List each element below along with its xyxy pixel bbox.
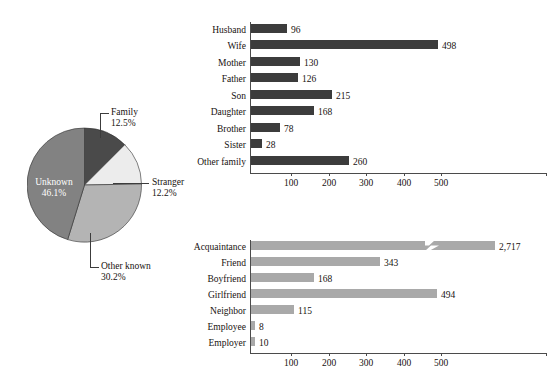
known-chart-bar-friend bbox=[251, 257, 380, 266]
known-chart-tick-label-100: 100 bbox=[276, 358, 306, 368]
known-chart-value-girlfriend: 494 bbox=[441, 290, 455, 300]
known-chart-value-boyfriend: 168 bbox=[318, 274, 332, 284]
known-nonfamily-bar-chart: 100 200 300 400 500 Acquaintance 2,717 F… bbox=[0, 0, 549, 391]
known-chart-cat-neighbor: Neighbor bbox=[176, 306, 246, 316]
known-chart-tick-label-400: 400 bbox=[389, 358, 419, 368]
known-chart-tick-100 bbox=[291, 353, 292, 356]
known-chart-cat-boyfriend: Boyfriend bbox=[176, 274, 246, 284]
known-chart-tick-300 bbox=[366, 353, 367, 356]
known-chart-value-friend: 343 bbox=[384, 258, 398, 268]
known-chart-bar-acquaintance bbox=[251, 241, 495, 250]
known-chart-axis-break-icon bbox=[424, 240, 440, 251]
known-chart-tick-500 bbox=[441, 353, 442, 356]
figure-canvas: Unknown 46.1% Family 12.5% Stranger 12.2… bbox=[0, 0, 549, 391]
known-chart-tick-200 bbox=[329, 353, 330, 356]
known-chart-cat-employee: Employee bbox=[176, 322, 246, 332]
known-chart-tick-label-300: 300 bbox=[351, 358, 381, 368]
known-chart-value-neighbor: 115 bbox=[298, 306, 312, 316]
known-chart-bar-girlfriend bbox=[251, 289, 437, 298]
known-chart-bar-employer bbox=[251, 337, 255, 346]
known-chart-value-employee: 8 bbox=[259, 322, 264, 332]
known-chart-tick-label-500: 500 bbox=[426, 358, 456, 368]
known-chart-value-acquaintance: 2,717 bbox=[499, 242, 520, 252]
known-chart-bar-employee bbox=[251, 321, 255, 330]
known-chart-cat-employer: Employer bbox=[176, 338, 246, 348]
known-chart-tick-label-200: 200 bbox=[314, 358, 344, 368]
known-chart-value-employer: 10 bbox=[259, 338, 269, 348]
known-chart-cat-girlfriend: Girlfriend bbox=[176, 290, 246, 300]
known-chart-tick-400 bbox=[404, 353, 405, 356]
known-chart-bar-boyfriend bbox=[251, 273, 314, 282]
known-chart-bar-neighbor bbox=[251, 305, 294, 314]
known-chart-tick-end bbox=[546, 353, 547, 356]
known-chart-cat-friend: Friend bbox=[176, 258, 246, 268]
known-chart-x-axis bbox=[250, 353, 546, 354]
known-chart-cat-acquaintance: Acquaintance bbox=[176, 242, 246, 252]
